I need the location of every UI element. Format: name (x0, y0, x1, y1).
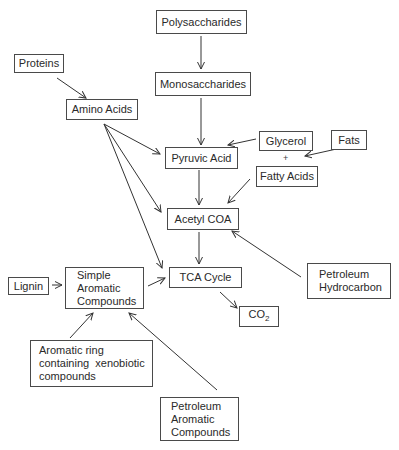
node-co2: CO2 (239, 306, 279, 327)
node-label: TCA Cycle (180, 271, 232, 284)
arrow-simple-to-tca (148, 278, 165, 286)
node-monosaccharides: Monosaccharides (155, 72, 251, 96)
node-label-line: Compounds (171, 426, 230, 439)
arrow-amino-to-tca (104, 124, 162, 268)
node-fatty-acids: Fatty Acids (256, 166, 318, 187)
node-label: Lignin (14, 280, 43, 293)
node-label: Polysaccharides (161, 16, 241, 29)
arrow-fatty-to-acetyl (228, 179, 250, 203)
node-aromatic-ring-xenobiotic: Aromatic ring containing xenobiotic comp… (30, 340, 153, 387)
node-label-line: Petroleum (319, 268, 369, 281)
node-label-line: Aromatic (171, 413, 214, 426)
node-label: Proteins (19, 57, 59, 70)
node-label: Acetyl COA (175, 213, 232, 226)
node-tca-cycle: TCA Cycle (169, 267, 242, 288)
arrow-amino-to-pyruvic (104, 124, 160, 154)
node-label-line: Simple (77, 269, 111, 282)
arrow-glycerol-to-pyruvic (228, 139, 256, 145)
node-label-line: Petroleum (171, 400, 221, 413)
node-pyruvic-acid: Pyruvic Acid (165, 147, 238, 169)
plus-sign: + (283, 153, 288, 163)
node-lignin: Lignin (8, 277, 49, 295)
node-label-line: Hydrocarbon (319, 281, 382, 294)
arrow-xeno-to-simple (70, 313, 93, 338)
node-label-line: Aromatic (77, 282, 120, 295)
node-label: Monosaccharides (160, 78, 246, 91)
arrow-hydrocarbon-to-acetyl (232, 231, 301, 277)
node-polysaccharides: Polysaccharides (156, 10, 247, 34)
node-label-line: Compounds (77, 295, 136, 308)
arrow-amino-to-acetyl (104, 124, 161, 212)
node-label: Glycerol (266, 135, 306, 148)
node-simple-aromatic-compounds: Simple Aromatic Compounds (65, 267, 144, 309)
node-label: Amino Acids (72, 103, 133, 116)
node-proteins: Proteins (14, 54, 64, 73)
node-fats: Fats (331, 130, 367, 150)
node-label: Fatty Acids (260, 170, 314, 183)
node-acetyl-coa: Acetyl COA (167, 208, 239, 230)
node-label-line: containing xenobiotic (39, 357, 145, 370)
node-petroleum-aromatic-compounds: Petroleum Aromatic Compounds (160, 397, 239, 441)
node-label-line: compounds (39, 370, 96, 383)
node-glycerol: Glycerol (259, 131, 313, 151)
node-label: Fats (338, 134, 359, 147)
node-petroleum-hydrocarbon: Petroleum Hydrocarbon (307, 263, 391, 299)
arrow-tca-to-co2 (220, 292, 237, 308)
arrow-proteins-to-amino (57, 78, 86, 98)
node-amino-acids: Amino Acids (66, 99, 138, 120)
node-label: Pyruvic Acid (172, 152, 232, 165)
node-label: CO2 (249, 308, 270, 325)
node-label-line: Aromatic ring (39, 344, 104, 357)
